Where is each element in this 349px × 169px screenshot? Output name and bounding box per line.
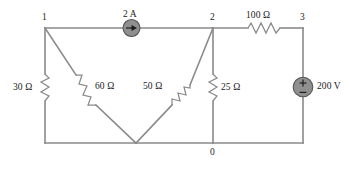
resistor-60ohm-label: 60 Ω: [95, 82, 114, 92]
resistor-30ohm-label: 30 Ω: [13, 83, 32, 93]
resistor-60ohm-zigzag: [76, 75, 96, 105]
resistor-25ohm-zigzag: [209, 74, 217, 101]
wire-node2-diagonal-upper: [190, 28, 213, 85]
node-label-3: 3: [300, 13, 305, 23]
node-label-1: 1: [42, 13, 47, 23]
node-label-0: 0: [210, 148, 215, 158]
wire-node1-diagonal-lower: [96, 105, 136, 143]
voltage-source-label: 200 V: [317, 82, 341, 92]
resistor-25ohm-label: 25 Ω: [221, 83, 240, 93]
resistor-50ohm-zigzag: [172, 85, 190, 105]
node-label-2: 2: [210, 13, 215, 23]
circuit-diagram: 1 2 3 0 30 Ω 60 Ω 50 Ω 25 Ω 100 Ω 2 A 20…: [0, 0, 349, 169]
wire-node2-diagonal-lower: [136, 105, 172, 143]
current-source-symbol: [123, 20, 140, 37]
current-source-label: 2 A: [123, 10, 137, 20]
circuit-schematic-canvas: [0, 0, 349, 169]
resistor-100ohm-zigzag: [248, 23, 280, 33]
wire-node1-diagonal-upper: [45, 28, 76, 75]
resistor-100ohm-label: 100 Ω: [246, 11, 270, 21]
voltage-source-symbol: [293, 77, 313, 97]
resistor-30ohm-zigzag: [41, 74, 49, 101]
resistor-50ohm-label: 50 Ω: [143, 82, 162, 92]
